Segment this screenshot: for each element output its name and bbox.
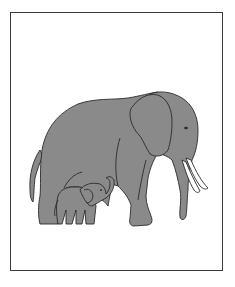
adult-eye (184, 127, 188, 129)
calf-eye (100, 189, 102, 191)
elephant-illustration (0, 0, 235, 287)
